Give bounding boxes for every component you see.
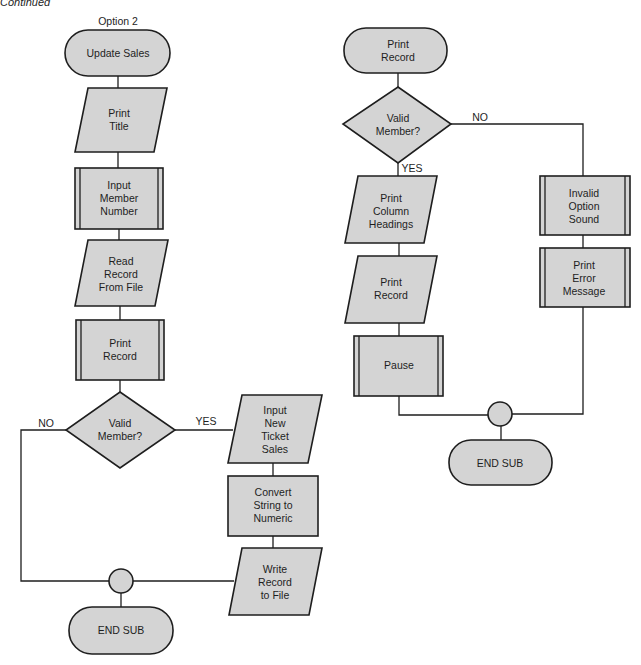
end-terminator-left: END SUB	[69, 607, 173, 654]
svg-text:Record: Record	[103, 350, 137, 362]
svg-text:Input: Input	[107, 179, 130, 191]
io-print-column-headings: Print Column Headings	[345, 176, 437, 243]
svg-text:Member?: Member?	[376, 125, 421, 137]
svg-text:Message: Message	[563, 285, 606, 297]
io-write-record-to-file: Write Record to File	[229, 548, 322, 615]
start-terminator-update-sales: Update Sales	[65, 30, 170, 76]
join-connector-right	[488, 402, 512, 426]
io-print-record-right: Print Record	[345, 256, 437, 323]
io-print-title: Print Title	[75, 88, 167, 152]
yes-label: YES	[195, 415, 216, 427]
svg-text:Valid: Valid	[387, 112, 410, 124]
predefined-pause: Pause	[354, 336, 443, 396]
svg-text:to File: to File	[261, 589, 290, 601]
caption: Continued	[0, 0, 51, 8]
svg-text:Print: Print	[387, 38, 409, 50]
svg-text:Invalid: Invalid	[569, 187, 600, 199]
svg-text:Title: Title	[109, 120, 129, 132]
svg-text:Column: Column	[373, 205, 409, 217]
left-flow-title: Option 2	[98, 15, 138, 27]
predefined-invalid-option-sound: Invalid Option Sound	[540, 176, 630, 235]
no-connector-right	[451, 124, 583, 176]
no-label-right: NO	[472, 111, 488, 123]
connector	[399, 396, 488, 415]
svg-text:Update Sales: Update Sales	[86, 47, 149, 59]
yes-label-right: YES	[401, 162, 422, 174]
svg-text:Option: Option	[569, 200, 600, 212]
svg-text:Headings: Headings	[369, 218, 413, 230]
svg-text:Record: Record	[381, 51, 415, 63]
decision-valid-member-left: Valid Member?	[66, 392, 175, 468]
join-connector-left	[109, 569, 133, 593]
predefined-print-record: Print Record	[76, 320, 164, 380]
svg-text:Valid: Valid	[109, 417, 132, 429]
io-input-new-ticket-sales: Input New Ticket Sales	[228, 395, 322, 463]
svg-text:String to: String to	[253, 499, 292, 511]
svg-text:Error: Error	[572, 272, 596, 284]
predefined-input-member-number: Input Member Number	[75, 168, 163, 229]
svg-text:Record: Record	[374, 289, 408, 301]
svg-text:Print: Print	[380, 276, 402, 288]
svg-text:Member?: Member?	[98, 430, 143, 442]
svg-text:Read: Read	[108, 255, 133, 267]
svg-text:Record: Record	[258, 576, 292, 588]
svg-text:Number: Number	[100, 205, 138, 217]
svg-text:Ticket: Ticket	[261, 430, 289, 442]
flowchart-canvas: Continued Option 2 Update Sales Print Ti…	[0, 0, 641, 665]
svg-text:Sales: Sales	[262, 443, 288, 455]
svg-text:Input: Input	[263, 404, 286, 416]
no-connector	[21, 430, 109, 581]
svg-text:Convert: Convert	[255, 486, 292, 498]
svg-text:Print: Print	[109, 337, 131, 349]
svg-text:END SUB: END SUB	[98, 624, 145, 636]
svg-text:From File: From File	[99, 281, 143, 293]
svg-text:Write: Write	[263, 563, 287, 575]
start-terminator-print-record: Print Record	[344, 28, 447, 73]
svg-text:Print: Print	[380, 192, 402, 204]
process-convert-string-to-numeric: Convert String to Numeric	[228, 476, 318, 536]
end-terminator-right: END SUB	[449, 440, 552, 485]
io-read-record-from-file: Read Record From File	[75, 240, 168, 306]
connector	[512, 307, 583, 414]
svg-text:Sound: Sound	[569, 213, 600, 225]
svg-text:Print: Print	[573, 259, 595, 271]
svg-text:New: New	[264, 417, 285, 429]
svg-text:Member: Member	[100, 192, 139, 204]
svg-text:Record: Record	[104, 268, 138, 280]
decision-valid-member-right: Valid Member?	[343, 87, 451, 163]
no-label: NO	[38, 417, 54, 429]
svg-text:Print: Print	[108, 107, 130, 119]
svg-text:Numeric: Numeric	[253, 512, 292, 524]
predefined-print-error-message: Print Error Message	[540, 248, 630, 307]
svg-text:END SUB: END SUB	[477, 457, 524, 469]
svg-text:Pause: Pause	[384, 359, 414, 371]
